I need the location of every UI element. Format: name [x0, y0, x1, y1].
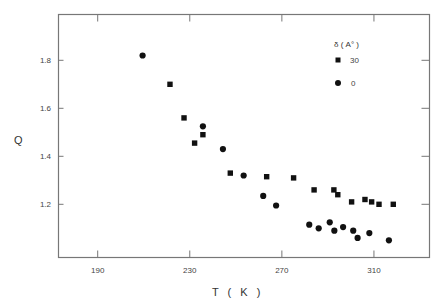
legend-label-0: 0: [351, 79, 356, 88]
axis-ticks: [59, 15, 430, 258]
x-axis-title: T ( K ): [212, 286, 263, 298]
data-point-circle: [366, 230, 372, 236]
data-point-circle: [200, 123, 206, 129]
data-point-square: [335, 192, 340, 197]
y-axis-title: Q: [14, 134, 23, 146]
tick-labels: 1902302703101.21.41.61.8: [40, 56, 381, 275]
plot-frame: [59, 15, 430, 258]
data-point-circle: [220, 146, 226, 152]
data-point-square: [376, 202, 381, 207]
data-point-square: [264, 174, 269, 179]
y-tick-label: 1.4: [40, 152, 52, 161]
data-point-circle: [139, 52, 145, 58]
data-point-square: [181, 115, 186, 120]
x-tick-label: 230: [183, 266, 197, 275]
data-point-circle: [316, 225, 322, 231]
data-points: [139, 52, 395, 243]
legend-square-marker-icon: [336, 58, 341, 63]
data-point-square: [391, 202, 396, 207]
data-point-square: [362, 197, 367, 202]
y-tick-label: 1.6: [40, 104, 52, 113]
data-point-circle: [354, 235, 360, 241]
data-point-square: [200, 132, 205, 137]
data-point-square: [331, 187, 336, 192]
data-point-circle: [306, 222, 312, 228]
legend-label-30: 30: [350, 56, 359, 65]
data-point-circle: [327, 219, 333, 225]
data-point-circle: [273, 202, 279, 208]
x-tick-label: 270: [275, 266, 289, 275]
data-point-circle: [350, 228, 356, 234]
scatter-chart: 1902302703101.21.41.61.8 δ ( A° ) 30 0 Q…: [0, 0, 442, 307]
legend-title: δ ( A° ): [334, 40, 359, 49]
data-point-circle: [241, 172, 247, 178]
y-tick-label: 1.8: [40, 56, 52, 65]
data-point-square: [167, 82, 172, 87]
data-point-circle: [340, 224, 346, 230]
data-point-square: [192, 140, 197, 145]
data-point-circle: [260, 193, 266, 199]
legend-circle-marker-icon: [335, 80, 341, 86]
x-tick-label: 310: [367, 266, 381, 275]
data-point-circle: [331, 228, 337, 234]
data-point-circle: [386, 237, 392, 243]
axes-box: [59, 15, 430, 258]
data-point-square: [291, 175, 296, 180]
data-point-square: [311, 187, 316, 192]
data-point-square: [369, 199, 374, 204]
data-point-square: [228, 170, 233, 175]
legend: δ ( A° ) 30 0: [334, 40, 359, 88]
y-tick-label: 1.2: [40, 200, 52, 209]
data-point-square: [349, 199, 354, 204]
x-tick-label: 190: [91, 266, 105, 275]
